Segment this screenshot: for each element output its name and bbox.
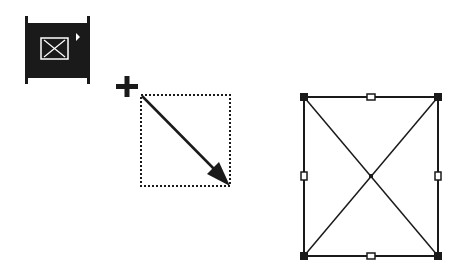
- handle-bottom-middle[interactable]: [367, 253, 375, 259]
- handle-left-middle[interactable]: [301, 172, 307, 180]
- handle-bottom-left[interactable]: [300, 252, 308, 260]
- handle-top-left[interactable]: [300, 93, 308, 101]
- crosshair-plus-icon: [116, 76, 138, 97]
- handle-top-right[interactable]: [434, 93, 442, 101]
- result-frame[interactable]: [300, 93, 442, 260]
- handle-bottom-right[interactable]: [434, 252, 442, 260]
- center-point: [369, 174, 373, 178]
- frame-tool-button[interactable]: [25, 16, 90, 84]
- drag-arrow-icon: [142, 96, 230, 186]
- handle-top-middle[interactable]: [367, 94, 375, 100]
- handle-right-middle[interactable]: [435, 172, 441, 180]
